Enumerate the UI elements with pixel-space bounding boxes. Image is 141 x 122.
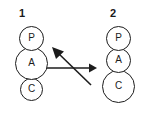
structure-2-node-c-letter: C xyxy=(115,81,122,91)
structure-1-node-c: C xyxy=(20,78,43,101)
structure-1-node-a-letter: A xyxy=(28,58,35,68)
structure-1-label: 1 xyxy=(12,8,32,19)
structure-2-node-a: A xyxy=(106,48,131,73)
diagram-canvas: 1 2 P A C P xyxy=(0,0,141,122)
structure-2-node-p: P xyxy=(106,26,131,51)
structure-2: P A C xyxy=(92,24,141,116)
structure-2-node-p-letter: P xyxy=(115,33,122,43)
structure-1-node-a: A xyxy=(15,47,48,80)
structure-1-node-p: P xyxy=(19,26,44,51)
structure-2-label: 2 xyxy=(103,8,123,19)
reverse-arrow xyxy=(52,47,91,85)
forward-arrow xyxy=(47,64,97,73)
structure-1-node-c-letter: C xyxy=(28,84,35,94)
structure-2-node-c: C xyxy=(102,70,135,103)
structure-1-node-p-letter: P xyxy=(28,33,35,43)
structure-2-node-a-letter: A xyxy=(115,55,122,65)
equilibrium-arrows xyxy=(47,44,97,90)
